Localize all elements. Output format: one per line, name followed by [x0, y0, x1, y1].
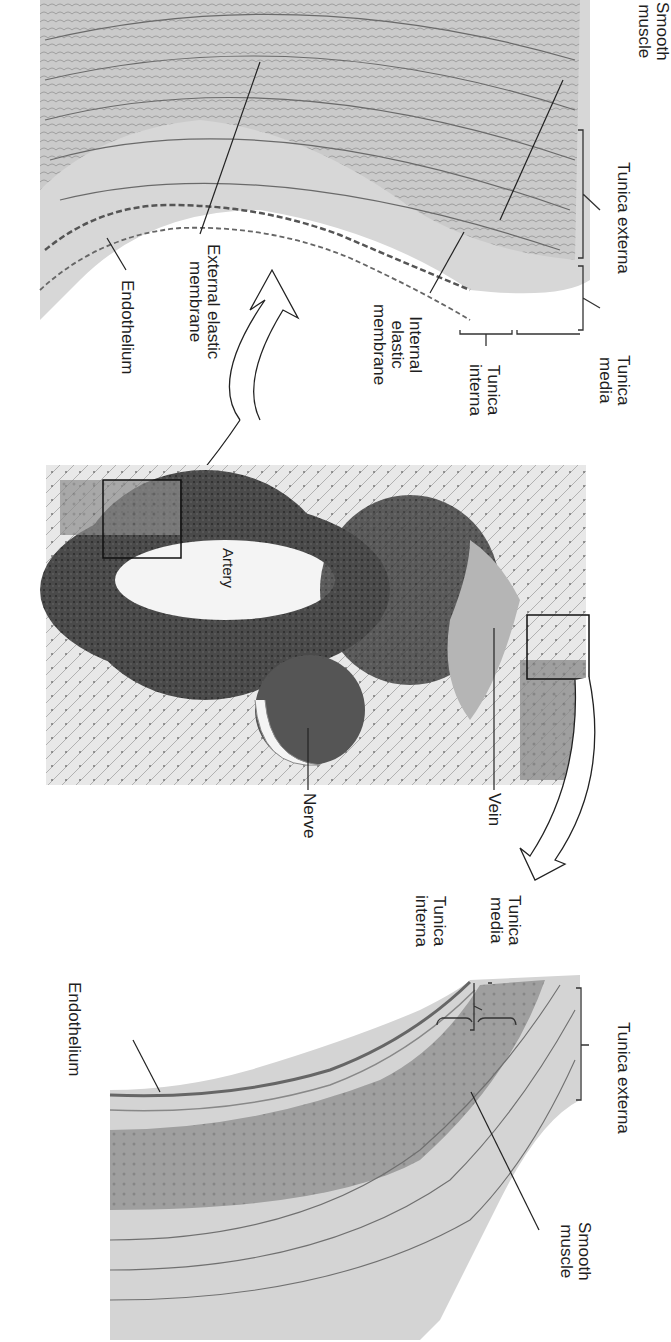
label-line: membrane [370, 304, 388, 385]
label-line: interna [412, 895, 430, 947]
label-tunica-media-bottom: Tunica media [487, 895, 523, 945]
label-line: media [596, 355, 614, 405]
vein-wall-drawing [110, 975, 589, 1340]
label-tunica-media-top: Tunica media [596, 355, 632, 405]
label-line: muscle [557, 1222, 575, 1281]
label-tunica-externa-top: Tunica externa [614, 162, 632, 274]
artery-wall-drawing [40, 0, 600, 480]
label-line: elastic [388, 304, 406, 385]
label-internal-elastic-membrane: Internal elastic membrane [370, 304, 424, 385]
label-line: Vein [485, 793, 503, 826]
label-nerve: Nerve [300, 793, 318, 838]
label-tunica-interna-top: Tunica interna [466, 364, 502, 416]
label-line: Endothelium [65, 982, 83, 1077]
label-line: Tunica externa [614, 1022, 632, 1134]
label-endothelium-bottom: Endothelium [65, 982, 83, 1077]
label-line: Nerve [300, 793, 318, 838]
label-line: Smooth [653, 2, 671, 61]
label-line: Tunica [505, 895, 523, 945]
label-line: interna [466, 364, 484, 416]
label-tunica-interna-bottom: Tunica interna [412, 895, 448, 947]
label-smooth-muscle-bottom: Smooth muscle [557, 1222, 593, 1281]
label-line: muscle [635, 2, 653, 61]
label-line: Smooth [575, 1222, 593, 1281]
label-external-elastic-membrane: External elastic membrane [186, 244, 222, 359]
label-line: media [487, 895, 505, 945]
label-artery: Artery [219, 548, 237, 588]
label-line: Tunica externa [614, 162, 632, 274]
label-line: Internal [406, 304, 424, 385]
label-smooth-muscle-top: Smooth muscle [635, 2, 671, 61]
label-line: Tunica [614, 355, 632, 405]
label-line: Tunica [430, 895, 448, 947]
label-line: Artery [219, 548, 237, 588]
label-vein: Vein [485, 793, 503, 826]
label-endothelium-top: Endothelium [118, 280, 136, 375]
label-line: membrane [186, 244, 204, 359]
diagram-artwork [0, 0, 671, 1342]
label-line: Endothelium [118, 280, 136, 375]
label-line: External elastic [204, 244, 222, 359]
label-line: Tunica [484, 364, 502, 416]
label-tunica-externa-bottom: Tunica externa [614, 1022, 632, 1134]
